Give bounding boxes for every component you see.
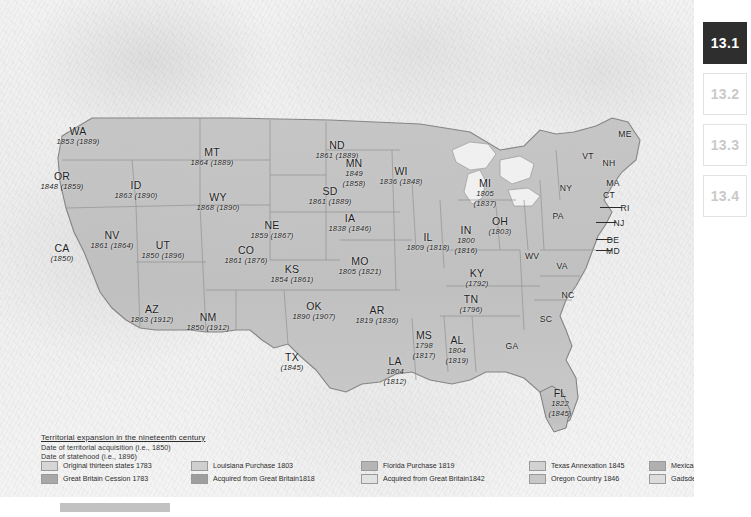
legend-items: Original thirteen states 1783Louisiana P…: [41, 459, 687, 485]
legend-title: Territorial expansion in the nineteenth …: [41, 433, 687, 442]
tab-13-3[interactable]: 13.3: [703, 124, 747, 166]
legend-label: Mexican Cession 1848: [671, 462, 694, 470]
bottom-progress-bar: [60, 503, 170, 512]
legend-swatch: [191, 461, 208, 471]
legend-note-acquisition: Date of territorial acquisition (i.e., 1…: [41, 444, 687, 453]
legend-item: Florida Purchase 1819: [361, 461, 529, 471]
legend-swatch: [361, 461, 378, 471]
map-legend: Territorial expansion in the nineteenth …: [41, 433, 687, 491]
legend-item: Mexican Cession 1848: [649, 461, 694, 471]
legend-item: Acquired from Great Britain1818: [191, 474, 361, 484]
tab-13-1[interactable]: 13.1: [703, 22, 747, 64]
legend-item: Texas Annexation 1845: [529, 461, 649, 471]
legend-label: Acquired from Great Britain1818: [213, 475, 315, 483]
legend-swatch: [361, 474, 378, 484]
legend-swatch: [191, 474, 208, 484]
leader-line-ri: [600, 207, 622, 208]
legend-label: Oregon Country 1846: [551, 475, 619, 483]
legend-label: Acquired from Great Britain1842: [383, 475, 485, 483]
map-figure: WA1853 (1889)OR1848 (1859)ID1863 (1890)M…: [0, 0, 694, 497]
legend-swatch: [41, 461, 58, 471]
legend-label: Gadsden Purchase 1853: [671, 475, 694, 483]
legend-swatch: [649, 461, 666, 471]
tab-13-4[interactable]: 13.4: [703, 175, 747, 217]
leader-line-md: [596, 250, 612, 251]
legend-item: Great Britain Cession 1783: [41, 474, 191, 484]
legend-swatch: [41, 474, 58, 484]
usa-landmass: [0, 0, 694, 497]
page-root: WA1853 (1889)OR1848 (1859)ID1863 (1890)M…: [0, 0, 751, 517]
leader-line-de: [596, 239, 612, 240]
legend-label: Louisiana Purchase 1803: [213, 462, 293, 470]
legend-item: Gadsden Purchase 1853: [649, 474, 694, 484]
legend-item: Louisiana Purchase 1803: [191, 461, 361, 471]
leader-line-nj: [596, 222, 616, 223]
legend-label: Original thirteen states 1783: [63, 462, 152, 470]
legend-item: Acquired from Great Britain1842: [361, 474, 529, 484]
legend-swatch: [529, 461, 546, 471]
legend-label: Florida Purchase 1819: [383, 462, 454, 470]
tab-13-2[interactable]: 13.2: [703, 73, 747, 115]
legend-label: Texas Annexation 1845: [551, 462, 624, 470]
legend-label: Great Britain Cession 1783: [63, 475, 148, 483]
legend-swatch: [649, 474, 666, 484]
section-tab-rail[interactable]: 13.113.213.313.4: [703, 22, 747, 226]
legend-item: Original thirteen states 1783: [41, 461, 191, 471]
legend-item: Oregon Country 1846: [529, 474, 649, 484]
legend-swatch: [529, 474, 546, 484]
